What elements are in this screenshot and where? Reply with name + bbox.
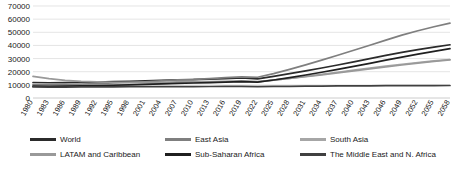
y-axis-tick-label: 20000 <box>8 68 31 77</box>
legend-item-latam-and-caribbean[interactable]: LATAM and Caribbean <box>30 151 165 159</box>
x-axis-tick-label: 2004 <box>147 99 163 118</box>
x-axis-tick-label: 2037 <box>323 99 339 118</box>
x-axis-tick-labels: 1980198319861989199219951998200120042007… <box>19 99 452 118</box>
legend-swatch-middle-east-and-n-africa <box>300 153 326 156</box>
legend-label-sub-saharan-africa: Sub-Saharan Africa <box>195 151 264 159</box>
y-axis-tick-label: 70000 <box>8 2 31 11</box>
legend-label-south-asia: South Asia <box>330 136 368 144</box>
x-axis-tick-label: 1989 <box>67 99 83 118</box>
line-chart: 010000200003000040000500006000070000 198… <box>0 0 452 173</box>
chart-legend: World East Asia South Asia LATAM and Car… <box>30 132 452 170</box>
legend-item-world[interactable]: World <box>30 136 165 144</box>
x-axis-tick-label: 1983 <box>35 99 51 118</box>
legend-swatch-world <box>30 138 56 141</box>
legend-swatch-sub-saharan-africa <box>165 153 191 156</box>
x-axis-tick-label: 2001 <box>131 99 147 118</box>
x-axis-tick-label: 2013 <box>195 99 211 118</box>
x-axis-tick-label: 1998 <box>115 99 131 118</box>
x-axis-tick-label: 2010 <box>179 99 195 118</box>
y-axis-tick-labels: 010000200003000040000500006000070000 <box>8 2 31 103</box>
legend-item-sub-saharan-africa[interactable]: Sub-Saharan Africa <box>165 151 300 159</box>
x-axis-tick-label: 2049 <box>387 99 403 118</box>
x-axis-tick-label: 2034 <box>307 99 323 118</box>
x-axis-tick-label: 2055 <box>420 99 436 118</box>
legend-item-east-asia[interactable]: East Asia <box>165 136 300 144</box>
data-series-group <box>33 23 450 87</box>
x-axis-tick-label: 2025 <box>259 99 275 118</box>
legend-swatch-east-asia <box>165 138 191 141</box>
series-line <box>33 60 450 82</box>
legend-label-middle-east-and-n-africa: The Middle East and N. Africa <box>330 151 436 159</box>
x-axis-tick-label: 1995 <box>99 99 115 118</box>
legend-swatch-latam-and-caribbean <box>30 153 56 156</box>
y-axis-tick-label: 10000 <box>8 81 31 90</box>
legend-item-south-asia[interactable]: South Asia <box>300 136 452 144</box>
y-axis-tick-label: 60000 <box>8 15 31 24</box>
x-axis-tick-label: 2022 <box>243 99 259 118</box>
x-axis-tick-label: 2019 <box>227 99 243 118</box>
y-axis-tick-label: 40000 <box>8 41 31 50</box>
y-axis-tick-label: 30000 <box>8 55 31 64</box>
legend-label-world: World <box>60 136 81 144</box>
legend-label-east-asia: East Asia <box>195 136 228 144</box>
x-axis-tick-label: 2052 <box>404 99 420 118</box>
x-axis-tick-label: 2016 <box>211 99 227 118</box>
legend-item-middle-east-and-n-africa[interactable]: The Middle East and N. Africa <box>300 151 452 159</box>
x-axis-tick-label: 2040 <box>339 99 355 118</box>
x-axis-tick-label: 2007 <box>163 99 179 118</box>
x-axis-tick-label: 2046 <box>371 99 387 118</box>
x-axis-tick-label: 1980 <box>19 99 35 118</box>
x-axis-tick-label: 2031 <box>291 99 307 118</box>
x-axis-tick-label: 1986 <box>51 99 67 118</box>
y-axis-tick-label: 50000 <box>8 28 31 37</box>
x-axis-tick-label: 2028 <box>275 99 291 118</box>
legend-swatch-south-asia <box>300 138 326 141</box>
legend-label-latam-and-caribbean: LATAM and Caribbean <box>60 151 140 159</box>
x-axis-tick-label: 2058 <box>436 99 452 118</box>
x-axis-tick-label: 1992 <box>83 99 99 118</box>
x-axis-tick-label: 2043 <box>355 99 371 118</box>
